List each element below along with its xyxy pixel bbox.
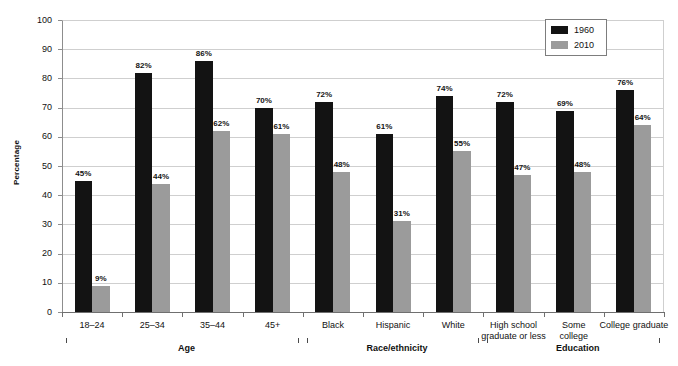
legend-swatch-1960-icon [551, 26, 568, 34]
bar-1960-35–44 [195, 61, 213, 312]
x-tick-mark [544, 312, 545, 317]
y-tick-label: 80 [26, 74, 52, 83]
bar-1960-hispanic [376, 134, 394, 312]
x-tick-mark [423, 312, 424, 317]
bar-2010-college-graduate [634, 125, 652, 312]
x-tick-mark [243, 312, 244, 317]
bar-value-label: 72% [309, 91, 339, 99]
bar-value-label: 55% [447, 140, 477, 148]
bar-chart: Percentage 1009080706050403020100 45%9%8… [0, 0, 678, 366]
x-tick-mark [604, 312, 605, 317]
bar-1960-college-graduate [616, 90, 634, 312]
bar-value-label: 48% [568, 161, 598, 169]
legend: 1960 2010 [545, 19, 607, 56]
group-bracket-label: Education [487, 343, 668, 353]
bar-value-label: 70% [249, 97, 279, 105]
bar-1960-black [315, 102, 333, 312]
y-tick-label: 30 [26, 220, 52, 229]
bar-value-label: 45% [69, 170, 99, 178]
group-bracket-label: Race/ethnicity [307, 343, 488, 353]
bar-value-label: 64% [628, 114, 658, 122]
bar-2010-some-college [574, 172, 592, 312]
x-tick-mark [122, 312, 123, 317]
bar-value-label: 44% [146, 173, 176, 181]
bar-value-label: 61% [267, 123, 297, 131]
bar-value-label: 69% [550, 100, 580, 108]
bar-2010-high-school-graduate-or-less [514, 175, 532, 312]
bar-value-label: 47% [508, 164, 538, 172]
y-tick-label: 40 [26, 191, 52, 200]
legend-item-2010: 2010 [551, 39, 601, 51]
x-category-label: College graduate [595, 320, 673, 331]
group-bracket-label: Age [66, 343, 307, 353]
bar-value-label: 86% [189, 50, 219, 58]
bar-1960-white [436, 96, 454, 312]
x-tick-mark [62, 312, 63, 317]
bar-value-label: 61% [370, 123, 400, 131]
bar-value-label: 76% [610, 79, 640, 87]
legend-label-1960: 1960 [574, 26, 594, 35]
bar-value-label: 82% [129, 62, 159, 70]
bar-1960-18–24 [75, 181, 93, 312]
x-tick-mark [182, 312, 183, 317]
legend-item-1960: 1960 [551, 24, 601, 36]
legend-swatch-2010-icon [551, 41, 568, 49]
bar-value-label: 74% [430, 85, 460, 93]
bar-1960-25–34 [135, 73, 153, 312]
y-tick-label: 50 [26, 162, 52, 171]
x-tick-mark [664, 312, 665, 317]
y-tick-label: 70 [26, 103, 52, 112]
y-tick-label: 0 [26, 308, 52, 317]
x-tick-mark [483, 312, 484, 317]
bar-2010-45+ [273, 134, 291, 312]
bar-value-label: 72% [490, 91, 520, 99]
y-tick-label: 10 [26, 278, 52, 287]
bar-2010-hispanic [393, 221, 411, 312]
bar-2010-35–44 [213, 131, 231, 312]
bar-2010-25–34 [152, 184, 170, 312]
legend-label-2010: 2010 [574, 41, 594, 50]
y-tick-label: 90 [26, 45, 52, 54]
bar-2010-white [453, 151, 471, 312]
bar-1960-high-school-graduate-or-less [496, 102, 514, 312]
bar-1960-some-college [556, 111, 574, 312]
y-axis-title: Percentage [12, 118, 21, 208]
y-tick-label: 60 [26, 132, 52, 141]
bar-2010-18–24 [92, 286, 110, 312]
bar-value-label: 9% [86, 275, 116, 283]
x-tick-mark [303, 312, 304, 317]
bar-value-label: 62% [207, 120, 237, 128]
bar-value-label: 48% [327, 161, 357, 169]
y-tick-label: 100 [26, 16, 52, 25]
x-tick-mark [363, 312, 364, 317]
bar-value-label: 31% [387, 210, 417, 218]
bar-2010-black [333, 172, 351, 312]
bar-1960-45+ [255, 108, 273, 312]
y-tick-label: 20 [26, 249, 52, 258]
